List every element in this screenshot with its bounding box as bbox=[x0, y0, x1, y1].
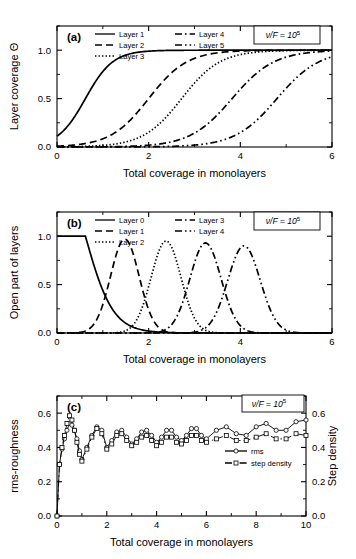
data-marker bbox=[90, 435, 94, 439]
data-marker bbox=[159, 435, 163, 439]
x-tick-label: 2 bbox=[146, 336, 151, 347]
annotation-text: ν/F = 105 bbox=[266, 29, 301, 41]
data-marker bbox=[110, 442, 114, 446]
data-marker bbox=[180, 442, 184, 446]
x-axis-title: Total coverage in monolayers bbox=[110, 536, 254, 548]
x-tick-label: 0 bbox=[54, 519, 59, 530]
legend-label: Layer 0 bbox=[119, 216, 144, 225]
legend-label: step density bbox=[251, 459, 292, 468]
data-marker bbox=[234, 432, 238, 436]
y-tick-label-right: 0.0 bbox=[312, 510, 325, 521]
y-tick-label: 0.0 bbox=[38, 141, 51, 152]
x-tick-label: 0 bbox=[54, 336, 59, 347]
legend-label: Layer 2 bbox=[119, 238, 144, 247]
data-marker bbox=[294, 432, 298, 436]
data-marker bbox=[72, 428, 76, 432]
data-marker bbox=[244, 439, 248, 443]
y-axis-title-right: Step density bbox=[326, 425, 338, 486]
data-marker bbox=[304, 433, 308, 437]
y-tick-label: 0.0 bbox=[38, 510, 51, 521]
data-marker bbox=[120, 432, 124, 436]
data-marker bbox=[294, 420, 298, 424]
y-axis-title: Open part of layers bbox=[8, 225, 20, 319]
y-tick-label: 0.5 bbox=[38, 93, 51, 104]
legend-label: Layer 1 bbox=[119, 227, 144, 236]
data-marker bbox=[274, 437, 278, 441]
y-tick-label: 1.0 bbox=[38, 231, 51, 242]
data-marker bbox=[140, 430, 144, 434]
data-marker bbox=[67, 414, 71, 418]
y-tick-label: 0.2 bbox=[38, 476, 51, 487]
data-marker bbox=[214, 437, 218, 441]
y-tick-label: 0.0 bbox=[38, 327, 51, 338]
data-marker bbox=[125, 439, 129, 443]
data-marker bbox=[184, 439, 188, 443]
panel-label: (c) bbox=[67, 401, 81, 413]
data-marker bbox=[254, 435, 258, 439]
data-marker bbox=[65, 421, 69, 425]
series-curve bbox=[57, 239, 332, 333]
data-marker bbox=[57, 463, 61, 467]
data-marker bbox=[284, 437, 288, 441]
legend-label: Layer 5 bbox=[199, 41, 224, 50]
y-axis-title: rms-roughness bbox=[8, 419, 20, 493]
data-marker bbox=[284, 428, 288, 432]
x-tick-label: 2 bbox=[104, 519, 109, 530]
x-tick-label: 4 bbox=[238, 150, 243, 161]
data-marker bbox=[274, 428, 278, 432]
x-tick-label: 2 bbox=[146, 150, 151, 161]
x-tick-label: 10 bbox=[301, 519, 312, 530]
data-marker bbox=[174, 435, 178, 439]
data-marker bbox=[214, 428, 218, 432]
panel-label: (b) bbox=[67, 217, 82, 229]
data-marker bbox=[199, 433, 203, 437]
figure-container: 02460.00.51.0Total coverage in monolayer… bbox=[0, 0, 356, 559]
data-marker bbox=[254, 425, 258, 429]
plot-a: 02460.00.51.0Total coverage in monolayer… bbox=[0, 0, 356, 190]
series-curve bbox=[57, 57, 332, 147]
series-curve bbox=[57, 50, 332, 136]
x-axis-title: Total coverage in monolayers bbox=[123, 167, 267, 179]
plot-c: 02468100.00.20.40.60.00.20.40.6Step dens… bbox=[0, 376, 356, 559]
x-tick-label: 4 bbox=[154, 519, 159, 530]
series-curve bbox=[57, 51, 332, 147]
y-tick-label: 0.5 bbox=[38, 279, 51, 290]
series-curve bbox=[57, 243, 332, 333]
x-axis-title: Total coverage in monolayers bbox=[123, 353, 267, 365]
data-marker bbox=[224, 425, 228, 429]
data-marker bbox=[80, 459, 84, 463]
data-marker bbox=[169, 428, 173, 432]
data-marker bbox=[140, 435, 144, 439]
legend-label: rms bbox=[251, 447, 264, 456]
data-marker bbox=[194, 433, 198, 437]
y-tick-label: 0.4 bbox=[38, 442, 51, 453]
data-marker bbox=[170, 435, 174, 439]
data-marker bbox=[234, 439, 238, 443]
data-marker bbox=[264, 421, 268, 425]
plot-b: 02460.00.51.0Total coverage in monolayer… bbox=[0, 186, 356, 376]
data-marker bbox=[199, 439, 203, 443]
data-marker bbox=[105, 447, 109, 451]
data-marker bbox=[130, 444, 134, 448]
data-marker bbox=[75, 440, 79, 444]
data-marker bbox=[77, 452, 81, 456]
data-marker bbox=[150, 433, 154, 437]
series-curve bbox=[57, 50, 332, 147]
panel-a: 02460.00.51.0Total coverage in monolayer… bbox=[0, 0, 356, 190]
data-marker bbox=[95, 427, 99, 431]
legend-marker bbox=[234, 449, 238, 453]
data-marker bbox=[164, 428, 168, 432]
data-marker bbox=[194, 426, 198, 430]
data-marker bbox=[160, 440, 164, 444]
y-tick-label-right: 0.4 bbox=[312, 442, 325, 453]
data-marker bbox=[145, 433, 149, 437]
series-curve bbox=[57, 246, 332, 333]
x-tick-label: 6 bbox=[329, 336, 334, 347]
data-marker bbox=[150, 439, 154, 443]
legend-label: Layer 3 bbox=[199, 216, 224, 225]
annotation-text: ν/F = 105 bbox=[252, 397, 287, 409]
panel-b: 02460.00.51.0Total coverage in monolayer… bbox=[0, 186, 356, 376]
data-marker bbox=[304, 418, 308, 422]
x-tick-label: 6 bbox=[329, 150, 334, 161]
data-marker bbox=[189, 433, 193, 437]
